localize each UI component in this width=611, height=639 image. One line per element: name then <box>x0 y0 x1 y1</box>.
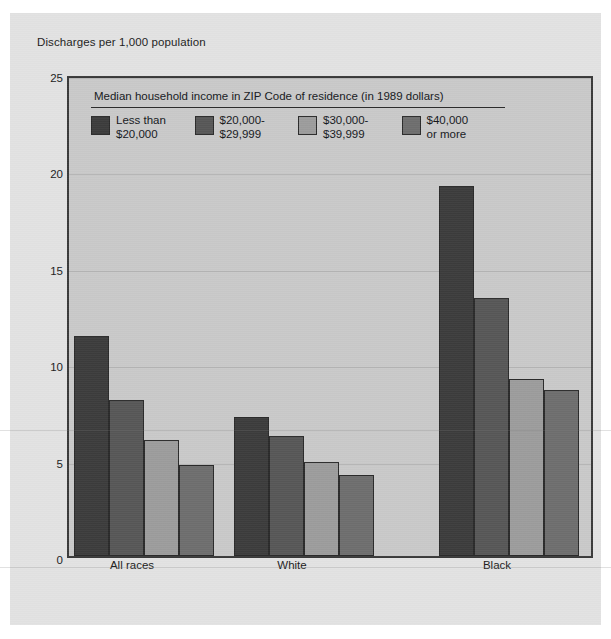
y-axis-tick-label: 20 <box>50 168 63 180</box>
legend-item[interactable]: $30,000-$39,999 <box>298 115 402 141</box>
legend-label: $20,000-$29,999 <box>220 115 265 141</box>
legend-title: Median household income in ZIP Code of r… <box>91 90 505 107</box>
legend-item[interactable]: $20,000-$29,999 <box>195 115 299 141</box>
legend: Median household income in ZIP Code of r… <box>91 90 505 141</box>
bar <box>509 379 544 556</box>
bar <box>304 462 339 556</box>
category-label: All races <box>110 559 154 571</box>
legend-label: $40,000or more <box>427 115 469 141</box>
y-axis-tick-label: 25 <box>50 72 63 84</box>
bar <box>109 400 144 556</box>
bar <box>544 390 579 556</box>
category-label: Black <box>483 559 511 571</box>
bar <box>179 465 214 556</box>
chart-page: Discharges per 1,000 population 05101520… <box>0 0 611 639</box>
y-axis-tick-label: 10 <box>50 361 63 373</box>
bar <box>144 440 179 556</box>
legend-swatch <box>91 116 110 135</box>
figure-panel: Discharges per 1,000 population 05101520… <box>10 13 601 625</box>
bar <box>74 336 109 556</box>
legend-swatch <box>298 116 317 135</box>
legend-swatch <box>402 116 421 135</box>
legend-item[interactable]: Less than$20,000 <box>91 115 195 141</box>
y-axis-tick-label: 5 <box>57 458 63 470</box>
y-axis-tick-label: 0 <box>57 554 63 566</box>
y-axis-tick-label: 15 <box>50 265 63 277</box>
legend-label: $30,000-$39,999 <box>323 115 368 141</box>
bars-layer <box>69 78 591 556</box>
legend-items: Less than$20,000$20,000-$29,999$30,000-$… <box>91 115 505 141</box>
category-label: White <box>277 559 306 571</box>
bar <box>474 298 509 556</box>
plot-area: 0510152025 Median household income in ZI… <box>67 76 593 558</box>
legend-item[interactable]: $40,000or more <box>402 115 506 141</box>
legend-swatch <box>195 116 214 135</box>
bar <box>234 417 269 556</box>
bar <box>269 436 304 556</box>
y-axis-caption: Discharges per 1,000 population <box>37 36 206 48</box>
legend-label: Less than$20,000 <box>116 115 166 141</box>
bar <box>339 475 374 556</box>
bar <box>439 186 474 556</box>
legend-divider <box>91 107 505 108</box>
